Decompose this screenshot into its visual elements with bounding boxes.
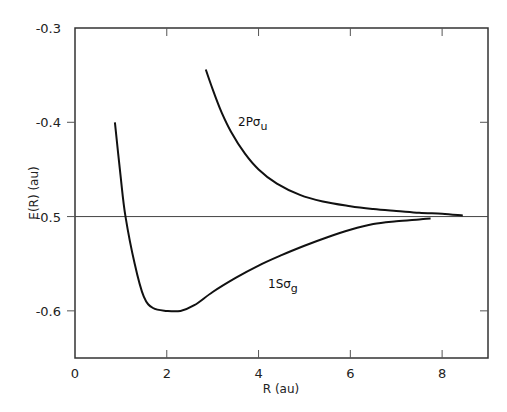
energy-curve-chart: 02468-0.3-0.4-0.5-0.6 R (au) E(R) (au) 2…: [0, 0, 507, 412]
x-axis-title: R (au): [263, 382, 299, 396]
x-tick-label: 2: [163, 366, 171, 381]
axis-ticks: 02468-0.3-0.4-0.5-0.6: [36, 21, 488, 381]
x-tick-label: 0: [71, 366, 79, 381]
curve-2Pσu: [206, 70, 463, 216]
x-tick-label: 6: [346, 366, 354, 381]
y-tick-label: -0.3: [36, 21, 61, 36]
x-tick-label: 4: [254, 366, 262, 381]
x-tick-label: 8: [438, 366, 446, 381]
label-2p-sigma-u: 2Pσu: [238, 115, 267, 133]
plot-frame: [75, 28, 488, 358]
y-tick-label: -0.4: [36, 115, 61, 130]
label-1s-sigma-g: 1Sσg: [268, 277, 298, 295]
curves: [115, 70, 463, 312]
y-axis-title: E(R) (au): [27, 166, 41, 219]
y-tick-label: -0.6: [36, 304, 61, 319]
